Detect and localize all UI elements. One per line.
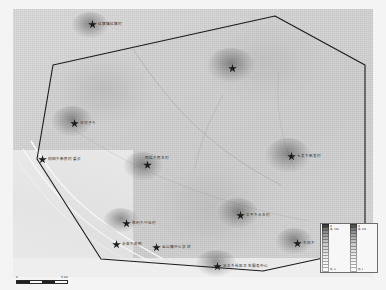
star-icon xyxy=(228,64,237,73)
map-marker[interactable]: 红旗镇红旗村 xyxy=(88,20,123,29)
marker-label: 永安乡政府 xyxy=(122,243,143,247)
scale-bar-labels: 0 5 km xyxy=(16,275,68,279)
map-marker[interactable]: 向阳乡新民村委会 xyxy=(38,155,81,164)
marker-label: 金山镇中心学校 xyxy=(162,246,191,250)
map-marker[interactable]: 长发乡新发村 xyxy=(287,152,322,161)
legend-label: 低 : 0 xyxy=(330,268,336,271)
marker-label: 长发乡新发村 xyxy=(297,155,322,159)
legend-column-2: 值高 : 255低 : 0 xyxy=(350,225,377,271)
map-marker[interactable]: 胜利乡兴业村 xyxy=(122,219,157,228)
scale-bar: 0 5 km xyxy=(16,275,68,284)
legend-swatch xyxy=(350,267,357,272)
map-marker[interactable]: 金山镇中心学校 xyxy=(152,243,191,252)
map-marker[interactable]: 东风乡 xyxy=(293,239,315,248)
scale-bar-segment xyxy=(55,281,68,283)
map-legend[interactable]: 值高 : 255低 : 0 值高 : 255低 : 0 xyxy=(320,223,378,273)
star-icon xyxy=(143,161,152,170)
map-figure: 红旗镇红旗村 双河子乡 向阳乡新民村委会 团结乡民主村 长发乡新发村 胜利乡兴业… xyxy=(0,0,386,290)
marker-label: 向阳乡新民村委会 xyxy=(48,158,81,162)
scale-bar-segment xyxy=(17,281,30,283)
map-marker[interactable]: 庆丰乡社区卫生服务中心 xyxy=(213,262,268,271)
star-icon xyxy=(152,243,161,252)
marker-label: 双河子乡 xyxy=(80,122,96,126)
scale-bar-left-label: 0 xyxy=(16,275,18,279)
star-icon xyxy=(213,262,222,271)
star-icon xyxy=(287,152,296,161)
star-icon xyxy=(112,240,121,249)
marker-label: 胜利乡兴业村 xyxy=(132,222,157,226)
map-marker[interactable]: 团结乡民主村 xyxy=(143,157,170,170)
legend-swatch xyxy=(322,267,329,272)
map-marker[interactable]: 双河子乡 xyxy=(70,119,96,128)
star-icon xyxy=(293,239,302,248)
star-icon xyxy=(88,20,97,29)
scale-bar-segment xyxy=(30,281,43,283)
scale-bar-segments xyxy=(16,280,68,284)
marker-label: 太平乡永丰村 xyxy=(246,214,271,218)
map-marker[interactable]: 太平乡永丰村 xyxy=(236,211,271,220)
star-icon xyxy=(38,155,47,164)
star-icon xyxy=(236,211,245,220)
marker-label: 庆丰乡社区卫生服务中心 xyxy=(223,265,268,269)
legend-row: 低 : 0 xyxy=(350,268,377,271)
legend-column-1: 值高 : 255低 : 0 xyxy=(322,225,349,271)
map-marker[interactable] xyxy=(228,64,238,73)
star-icon xyxy=(122,219,131,228)
marker-label: 红旗镇红旗村 xyxy=(98,23,123,27)
scale-bar-right-label: 5 km xyxy=(61,275,68,279)
legend-row: 低 : 0 xyxy=(322,268,349,271)
marker-label: 东风乡 xyxy=(303,242,315,246)
map-marker[interactable]: 永安乡政府 xyxy=(112,240,143,249)
star-icon xyxy=(70,119,79,128)
legend-label: 低 : 0 xyxy=(358,268,364,271)
scale-bar-segment xyxy=(42,281,55,283)
marker-label: 团结乡民主村 xyxy=(145,157,170,161)
